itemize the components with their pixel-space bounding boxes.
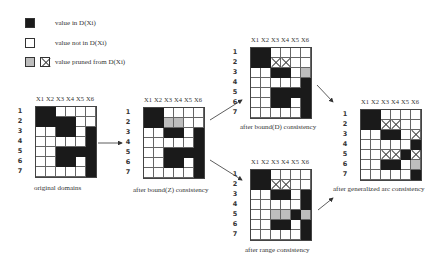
arrows <box>0 0 441 264</box>
arrow-boundZ-to-boundD <box>210 100 242 120</box>
arrow-range-to-gac <box>318 198 333 210</box>
arrow-boundZ-to-range <box>210 160 242 180</box>
arrow-boundD-to-gac <box>317 85 333 102</box>
